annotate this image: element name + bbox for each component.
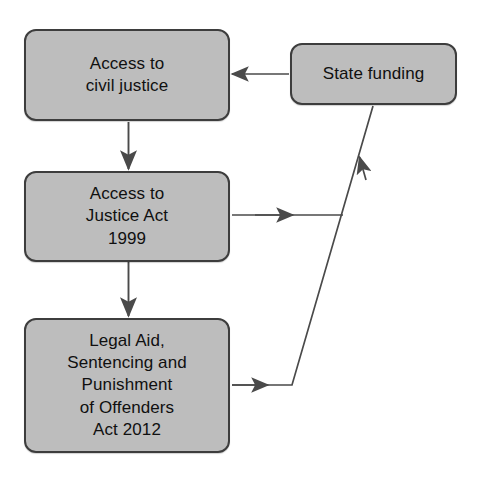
flow-diagram: Access to civil justice State funding Ac…: [0, 0, 482, 485]
node-state-funding[interactable]: State funding: [290, 43, 457, 105]
node-access-to-civil-justice[interactable]: Access to civil justice: [24, 29, 230, 121]
node-label: Access to civil justice: [32, 53, 222, 97]
node-label: State funding: [298, 63, 449, 85]
node-label: Legal Aid, Sentencing and Punishment of …: [32, 330, 222, 440]
node-label: Access to Justice Act 1999: [32, 183, 222, 249]
node-access-to-justice-act-1999[interactable]: Access to Justice Act 1999: [24, 171, 230, 262]
node-legal-aid-sentencing-punishment-of-offenders-act-2012[interactable]: Legal Aid, Sentencing and Punishment of …: [24, 318, 230, 453]
edge-laspo-to-state-funding: [232, 106, 373, 385]
